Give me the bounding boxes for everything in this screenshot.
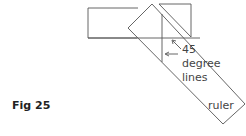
angle-unit-label: degree — [182, 58, 221, 70]
angle-value-label: 45 — [182, 44, 196, 56]
angle-lines-label: lines — [182, 72, 208, 84]
diagonal-arrow — [173, 41, 181, 49]
ruler-label: ruler — [208, 100, 234, 112]
right-triangle-piece — [159, 4, 191, 37]
figure-caption: Fig 25 — [12, 99, 50, 112]
left-rectangle — [88, 8, 138, 38]
